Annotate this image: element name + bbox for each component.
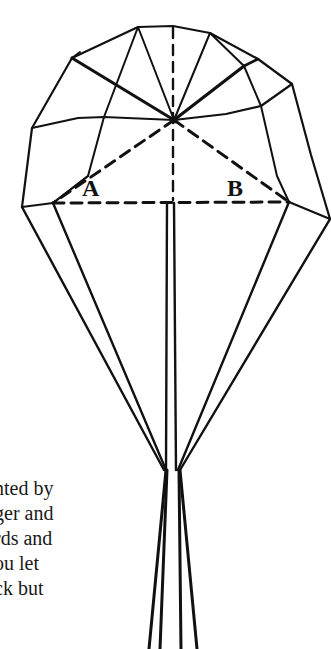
riser-lines bbox=[149, 470, 197, 649]
text-line: nted by bbox=[0, 476, 134, 501]
text-line: rds and bbox=[0, 526, 134, 551]
label-b: B bbox=[227, 175, 243, 201]
suspension-lines bbox=[22, 202, 330, 470]
text-line: ger and bbox=[0, 501, 134, 526]
text-line: ou let bbox=[0, 551, 134, 576]
label-a: A bbox=[82, 175, 100, 201]
apex-point bbox=[171, 117, 178, 124]
body-text-fragment: nted by ger and rds and ou let ck but bbox=[0, 476, 134, 601]
text-line: ck but bbox=[0, 576, 134, 601]
